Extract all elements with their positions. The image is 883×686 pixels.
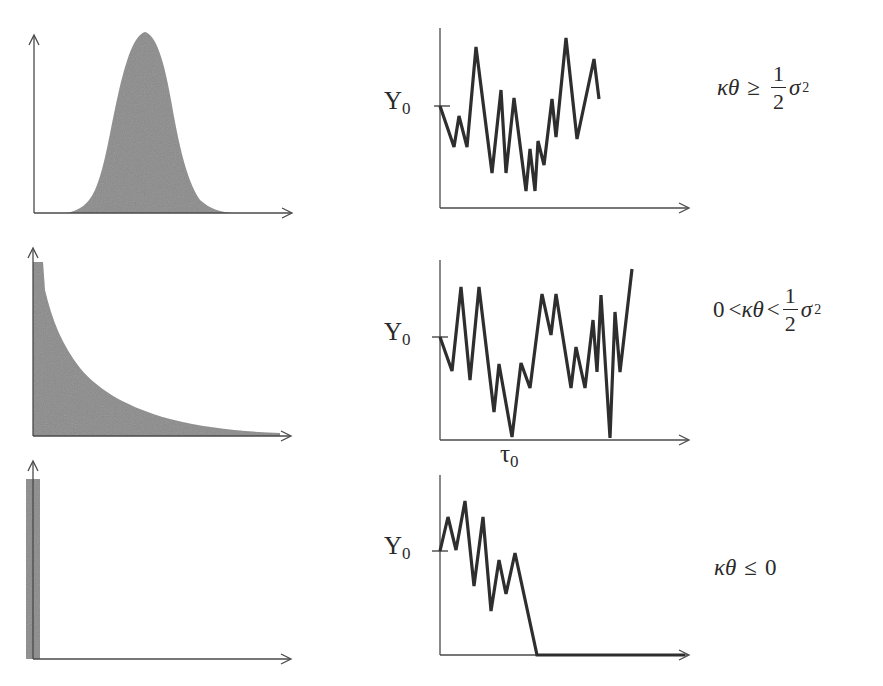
- density-plot-row2: [28, 248, 291, 441]
- exponent: 2: [802, 80, 809, 96]
- y-label-text: Y: [384, 318, 402, 345]
- y-label-text: Y: [384, 532, 402, 559]
- sigma: σ: [801, 297, 812, 323]
- numerator: 1: [771, 63, 786, 88]
- sample-path-plot-row2: [432, 260, 689, 445]
- operator-lt: <: [729, 297, 742, 323]
- zero: 0: [713, 297, 725, 323]
- sample-path-plot-row3: [432, 475, 689, 660]
- condition-row3: κθ ≤ 0: [714, 555, 776, 581]
- sample-path-plot-row1: [434, 28, 689, 213]
- y-label-subscript: 0: [402, 330, 411, 349]
- y0-label-row2: Y0: [384, 319, 411, 348]
- sample-path-line: [440, 269, 632, 438]
- operator-lt: <: [767, 297, 780, 323]
- density-plot-row3: [26, 461, 291, 664]
- operator: ≥: [747, 75, 760, 101]
- sample-path-line: [440, 501, 685, 655]
- condition-row2: 0 < κθ < 1 2 σ2: [713, 285, 821, 335]
- operator: ≤: [744, 555, 757, 581]
- y-label-subscript: 0: [402, 99, 411, 118]
- tau-label-subscript: 0: [510, 452, 519, 471]
- denominator: 2: [773, 88, 784, 113]
- kappa-theta: κθ: [714, 555, 736, 581]
- y-label-subscript: 0: [402, 544, 411, 563]
- fraction-one-half: 1 2: [783, 285, 798, 335]
- exponent: 2: [814, 302, 821, 318]
- denominator: 2: [785, 310, 796, 335]
- condition-row1: κθ ≥ 1 2 σ2: [717, 63, 809, 113]
- kappa-theta: κθ: [741, 297, 763, 323]
- tau0-label: τ0: [500, 441, 519, 470]
- y0-label-row3: Y0: [384, 533, 411, 562]
- y0-label-row1: Y0: [384, 88, 411, 117]
- numerator: 1: [783, 285, 798, 310]
- sigma: σ: [789, 75, 800, 101]
- kappa-theta: κθ: [717, 75, 739, 101]
- fraction-one-half: 1 2: [771, 63, 786, 113]
- y-label-text: Y: [384, 87, 402, 114]
- density-plot-row1: [29, 32, 292, 218]
- sample-path-line: [440, 38, 599, 191]
- zero: 0: [765, 555, 777, 581]
- tau-label-text: τ: [500, 440, 510, 467]
